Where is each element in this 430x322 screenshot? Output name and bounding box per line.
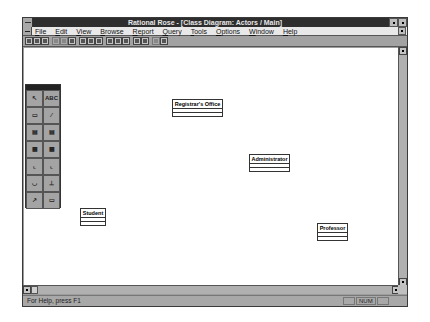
maximize-button[interactable] [398,18,407,27]
class-icon: ▤ [32,129,38,135]
status-bar: For Help, press F1 NUM [23,295,407,306]
menu-file[interactable]: File [35,27,46,36]
toolbar [23,36,407,47]
parameterized-utility-tool[interactable]: ▩ [43,141,60,158]
cut-icon[interactable] [52,37,60,45]
browse-previous-icon[interactable] [141,37,149,45]
note-tool[interactable]: ▭ [26,107,43,124]
menu-browse[interactable]: Browse [100,27,123,36]
class-utility-tool[interactable]: ▩ [26,141,43,158]
help-icon[interactable] [87,37,95,45]
text-tool[interactable]: ABC [43,90,60,107]
zoom-out-icon[interactable] [160,37,168,45]
diagram-canvas[interactable]: ↖ ABC ▭ ∕ ▤ ▤ ▩ ▩ ⌞ ⌞ ◡ ⊥ ↗ ▭ Registrar'… [24,48,398,285]
anchor-line-icon: ∕ [51,112,52,118]
scroll-up-button[interactable] [399,47,407,55]
parameterized-class-icon: ▤ [49,129,55,135]
class-name: Student [81,209,105,218]
arrow-cursor-icon: ↖ [32,95,37,101]
new-icon[interactable] [25,37,33,45]
association-tool[interactable]: ⌞ [26,158,43,175]
status-cell-scrl [377,297,389,305]
inheritance-icon: ↗ [32,197,37,203]
browse-component-diagram-icon[interactable] [122,37,130,45]
menu-tools[interactable]: Tools [191,27,207,36]
minimize-button[interactable] [389,18,398,27]
horizontal-scroll-thumb[interactable] [31,286,38,294]
tool-palette: ↖ ABC ▭ ∕ ▤ ▤ ▩ ▩ ⌞ ⌞ ◡ ⊥ ↗ ▭ [25,84,61,208]
class-category-tool[interactable]: ▭ [43,192,60,209]
menu-help[interactable]: Help [283,27,297,36]
paste-icon[interactable] [68,37,76,45]
uses-icon: ◡ [32,180,37,186]
class-professor[interactable]: Professor [317,223,348,241]
class-utility-icon: ▩ [32,146,38,152]
browse-interaction-diagram-icon[interactable] [114,37,122,45]
operations-compartment [173,113,222,116]
menu-edit[interactable]: Edit [55,27,67,36]
class-registrars-office[interactable]: Registrar's Office [172,99,223,117]
operations-compartment [250,168,289,171]
anchor-tool[interactable]: ∕ [43,107,60,124]
status-cell-num: NUM [356,297,376,305]
menu-view[interactable]: View [76,27,91,36]
menu-window[interactable]: Window [249,27,274,36]
class-student[interactable]: Student [80,208,106,226]
class-name: Registrar's Office [173,100,222,109]
document-system-menu-icon[interactable] [23,27,32,35]
vertical-scrollbar[interactable] [398,47,407,286]
inheritance-tool[interactable]: ↗ [26,192,43,209]
menu-bar: File Edit View Browse Report Query Tools… [23,27,407,36]
aggregation-icon: ⌞ [50,163,53,169]
class-administrator[interactable]: Administrator [249,154,290,172]
zoom-in-icon[interactable] [152,37,160,45]
uses-tool[interactable]: ◡ [26,175,43,192]
association-icon: ⌞ [33,163,36,169]
open-icon[interactable] [33,37,41,45]
browse-class-diagram-icon[interactable] [106,37,114,45]
class-name: Administrator [250,155,289,164]
title-bar[interactable]: Rational Rose - [Class Diagram: Actors /… [23,18,407,27]
context-help-icon[interactable] [95,37,103,45]
operations-compartment [81,222,105,225]
horizontal-scrollbar[interactable] [23,285,400,294]
instantiation-icon: ⊥ [49,180,54,186]
instantiation-tool[interactable]: ⊥ [43,175,60,192]
print-icon[interactable] [79,37,87,45]
scroll-left-button[interactable] [23,286,31,294]
category-icon: ▭ [49,197,55,203]
status-message: For Help, press F1 [27,296,81,306]
menu-options[interactable]: Options [216,27,240,36]
menu-report[interactable]: Report [133,27,154,36]
window-title: Rational Rose - [Class Diagram: Actors /… [23,18,387,27]
save-icon[interactable] [41,37,49,45]
aggregation-tool[interactable]: ⌞ [43,158,60,175]
class-name: Professor [318,224,347,233]
parameterized-class-tool[interactable]: ▤ [43,124,60,141]
browse-parent-icon[interactable] [133,37,141,45]
text-icon: ABC [45,95,58,101]
parameterized-utility-icon: ▩ [49,146,55,152]
copy-icon[interactable] [60,37,68,45]
menu-query[interactable]: Query [163,27,182,36]
operations-compartment [318,237,347,240]
note-icon: ▭ [32,112,38,118]
document-restore-button[interactable] [398,27,406,35]
status-cell-caps [343,297,355,305]
class-tool[interactable]: ▤ [26,124,43,141]
scrollbar-corner [398,285,407,294]
selection-tool[interactable]: ↖ [26,90,43,107]
application-window: Rational Rose - [Class Diagram: Actors /… [22,17,408,307]
